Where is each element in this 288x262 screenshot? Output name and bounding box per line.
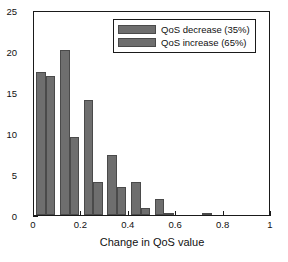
x-axis-tick-label: 0.6 bbox=[169, 219, 182, 230]
y-axis-tick-label: 10 bbox=[0, 129, 17, 140]
bar bbox=[93, 182, 102, 215]
bar bbox=[117, 187, 126, 215]
bar bbox=[202, 213, 211, 215]
x-axis-tick-label: 0.4 bbox=[121, 219, 134, 230]
x-axis-tick-mark bbox=[223, 211, 224, 216]
y-axis-tick-label: 0 bbox=[0, 211, 17, 222]
bar bbox=[60, 50, 69, 215]
y-axis-tick-label: 20 bbox=[0, 47, 17, 58]
legend-entry-qos-increase: QoS increase (65%) bbox=[118, 36, 250, 49]
legend-swatch-icon bbox=[118, 38, 156, 47]
chart-legend: QoS decrease (35%) QoS increase (65%) bbox=[113, 19, 256, 53]
legend-entry-qos-decrease: QoS decrease (35%) bbox=[118, 23, 250, 36]
bar bbox=[164, 213, 173, 215]
legend-entry-label: QoS increase (65%) bbox=[161, 38, 247, 48]
bar bbox=[70, 137, 79, 215]
bar bbox=[107, 155, 116, 215]
chart-figure: Percent (%) 0510152025 00.20.40.60.81 Ch… bbox=[0, 0, 288, 262]
y-axis-tick-label: 15 bbox=[0, 88, 17, 99]
x-axis-title: Change in QoS value bbox=[100, 236, 205, 248]
bar bbox=[84, 100, 93, 215]
x-axis-tick-mark bbox=[175, 211, 176, 216]
x-axis-tick-label: 0.8 bbox=[216, 219, 229, 230]
x-axis-tick-mark bbox=[33, 211, 34, 216]
legend-swatch-icon bbox=[118, 25, 156, 34]
x-axis-tick-label: 0 bbox=[30, 219, 35, 230]
bar bbox=[46, 76, 55, 215]
bar bbox=[141, 208, 150, 215]
x-axis-tick-label: 0.2 bbox=[74, 219, 87, 230]
bar bbox=[36, 72, 45, 216]
x-axis-tick-mark bbox=[270, 211, 271, 216]
y-axis-tick-label: 25 bbox=[0, 6, 17, 17]
x-axis-tick-mark bbox=[80, 211, 81, 216]
y-axis-tick-label: 5 bbox=[0, 170, 17, 181]
x-axis-tick-mark bbox=[128, 211, 129, 216]
bar bbox=[131, 182, 140, 215]
y-axis-tick-mark bbox=[33, 216, 38, 217]
legend-entry-label: QoS decrease (35%) bbox=[161, 25, 250, 35]
bar bbox=[155, 199, 164, 215]
x-axis-tick-label: 1 bbox=[267, 219, 272, 230]
